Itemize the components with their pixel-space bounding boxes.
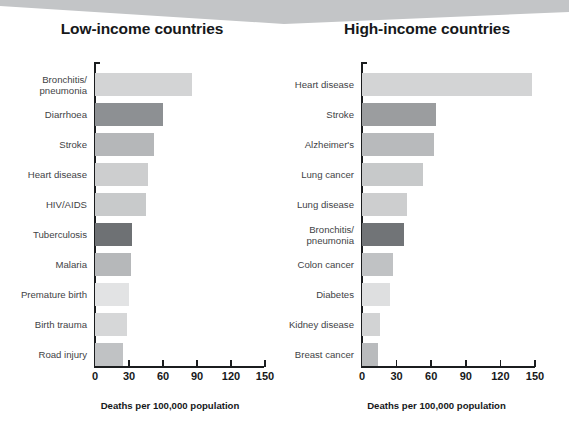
bar-label: Stroke: [0, 130, 95, 160]
x-axis-tick-label: 120: [491, 370, 509, 382]
bar-label: Heart disease: [204, 70, 362, 100]
bar-label: Bronchitis/ pneumonia: [0, 70, 95, 100]
bar: [95, 193, 146, 216]
x-axis-tick-label: 90: [460, 370, 472, 382]
x-axis-tick: [534, 360, 536, 367]
bar-label: Malaria: [0, 250, 95, 280]
bar-label: Tuberculosis: [0, 220, 95, 250]
chart-title-high-income: High-income countries: [285, 20, 569, 38]
bar-label: Kidney disease: [204, 310, 362, 340]
bar-row: Kidney disease: [362, 310, 535, 340]
x-axis-tick: [430, 360, 432, 367]
x-axis-tick: [196, 360, 198, 367]
bar-label: Colon cancer: [204, 250, 362, 280]
bar-row: Alzheimer's: [362, 130, 535, 160]
x-axis-tick-label: 0: [359, 370, 365, 382]
x-axis-tick-label: 90: [191, 370, 203, 382]
bar-label: Birth trauma: [0, 310, 95, 340]
x-axis-caption: Deaths per 100,000 population: [85, 400, 255, 411]
bar: [95, 283, 129, 306]
bar-row: Stroke: [362, 100, 535, 130]
bar-label: Diarrhoea: [0, 100, 95, 130]
bar-row: Colon cancer: [362, 250, 535, 280]
x-axis-tick-label: 120: [222, 370, 240, 382]
plot-area-high-income: Heart disease Stroke Alzheimer's Lung ca…: [362, 62, 535, 367]
bar-label: Stroke: [204, 100, 362, 130]
bar: [362, 163, 423, 186]
bar: [95, 73, 192, 96]
bar: [362, 133, 434, 156]
bar-row: Diabetes: [362, 280, 535, 310]
y-axis-top-tick: [361, 62, 367, 64]
bar-label: Breast cancer: [204, 340, 362, 370]
bar: [362, 103, 436, 126]
bar: [95, 103, 163, 126]
x-axis-tick-label: 150: [526, 370, 544, 382]
bar-label: Diabetes: [204, 280, 362, 310]
bar: [362, 73, 532, 96]
bar: [362, 283, 390, 306]
bar-label: Lung disease: [204, 190, 362, 220]
bar: [95, 343, 123, 366]
dual-bar-chart-figure: Low-income countries Bronchitis/ pneumon…: [0, 0, 569, 429]
bar-label: HIV/AIDS: [0, 190, 95, 220]
x-axis-caption: Deaths per 100,000 population: [350, 400, 523, 411]
x-axis-tick: [396, 360, 398, 367]
x-axis-tick: [162, 360, 164, 367]
x-axis-tick: [500, 360, 502, 367]
bar: [362, 193, 407, 216]
bar: [95, 253, 131, 276]
bar-label: Road injury: [0, 340, 95, 370]
x-axis-tick-label: 30: [390, 370, 402, 382]
x-axis-tick-label: 0: [92, 370, 98, 382]
x-axis-tick-label: 30: [123, 370, 135, 382]
bar-row: Heart disease: [362, 70, 535, 100]
bar: [95, 163, 148, 186]
x-axis-tick: [465, 360, 467, 367]
x-axis-tick-label: 60: [157, 370, 169, 382]
bar-label: Premature birth: [0, 280, 95, 310]
x-axis-tick-label: 150: [256, 370, 274, 382]
bar-row: Lung disease: [362, 190, 535, 220]
bar-label: Bronchitis/ pneumonia: [204, 220, 362, 250]
bar: [95, 223, 132, 246]
bar: [95, 313, 127, 336]
bar-rows-high-income: Heart disease Stroke Alzheimer's Lung ca…: [362, 70, 535, 370]
bar: [362, 253, 393, 276]
bar: [362, 313, 380, 336]
bar: [362, 343, 378, 366]
x-axis-line: [361, 366, 535, 368]
bar: [95, 133, 154, 156]
chart-title-low-income: Low-income countries: [0, 20, 284, 38]
x-axis-tick: [128, 360, 130, 367]
bar-label: Lung cancer: [204, 160, 362, 190]
bar: [362, 223, 404, 246]
y-axis-top-tick: [94, 62, 100, 64]
bar-label: Heart disease: [0, 160, 95, 190]
bar-row: Bronchitis/ pneumonia: [362, 220, 535, 250]
bar-label: Alzheimer's: [204, 130, 362, 160]
bar-row: Lung cancer: [362, 160, 535, 190]
x-axis-tick-label: 60: [425, 370, 437, 382]
